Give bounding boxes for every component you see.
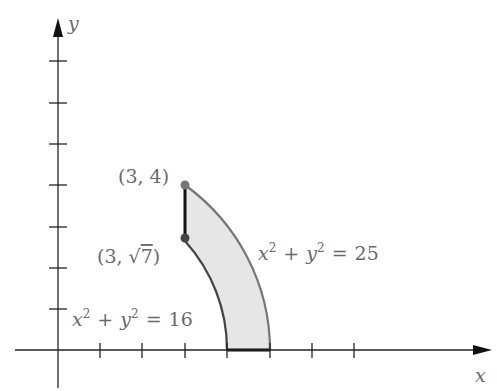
point-label-3-sqrt7: (3, √7) [97, 245, 160, 267]
diagram-canvas: y x (3, 4) (3, √7) x2+y2=25 x2+y2=16 [0, 0, 497, 391]
point-3-4 [181, 181, 190, 190]
equation-inner-circle: x2+y2=16 [72, 307, 193, 330]
y-axis-label: y [67, 12, 79, 34]
y-axis-arrow-icon [53, 18, 63, 37]
point-label-3-4: (3, 4) [118, 165, 169, 187]
equation-outer-circle: x2+y2=25 [258, 241, 379, 264]
x-axis-arrow-icon [473, 345, 492, 355]
x-axis-label: x [475, 364, 486, 386]
shaded-region [185, 185, 270, 350]
point-3-sqrt7 [181, 234, 190, 243]
